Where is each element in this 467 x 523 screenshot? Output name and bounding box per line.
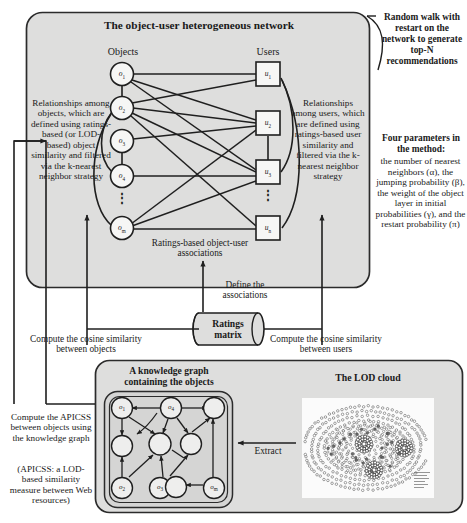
annotation-users-relationships: Relationships among users, which are def… xyxy=(290,98,366,182)
kg-edge-o4-midright xyxy=(177,418,188,433)
node-label-o2: o2 xyxy=(112,104,132,114)
annotation-objects-relationships: Relationships among objects, which are d… xyxy=(30,98,112,182)
kg-title-line1: A knowledge graph xyxy=(129,365,208,376)
kg-edge-midright-up xyxy=(192,418,210,432)
objects-ellipsis: ⋮ xyxy=(113,195,131,202)
users-column-header: Users xyxy=(238,47,298,58)
node-label-o4: o4 xyxy=(112,172,132,182)
four-parameters-body: the number of nearest neighbors (α), the… xyxy=(374,156,467,230)
node-label-u1: u1 xyxy=(258,70,278,80)
kg-node-label-o2: o2 xyxy=(113,484,131,493)
kg-node-label-o3: o3 xyxy=(151,484,169,493)
network-nodes xyxy=(0,0,467,523)
node-label-u3: u3 xyxy=(258,168,278,178)
kg-node-label-o4: o4 xyxy=(162,404,180,413)
annotation-define-associations: Define the associations xyxy=(208,280,282,301)
users-ellipsis: ⋮ xyxy=(259,192,277,199)
annotation-cosine-objects: Compute the cosine similarity between ob… xyxy=(30,334,142,355)
kg-node-mid-left xyxy=(112,436,133,457)
kg-title-line2: containing the objects xyxy=(124,376,214,387)
knowledge-graph-title: A knowledge graph containing the objects xyxy=(105,366,233,388)
network-caption: Ratings-based object-user associations xyxy=(130,238,270,259)
annotation-extract: Extract xyxy=(240,446,296,456)
objects-column-header: Objects xyxy=(92,47,154,58)
node-label-o1: o1 xyxy=(112,70,132,80)
kg-node-label-om: om xyxy=(205,484,223,493)
user-nodes xyxy=(256,62,280,240)
annotation-apicss-compute: Compute the APICSS between objects using… xyxy=(10,412,92,443)
ratings-matrix-line1: Ratings xyxy=(212,318,243,329)
node-label-un: un xyxy=(258,224,278,234)
ratings-matrix-line2: matrix xyxy=(214,329,242,340)
node-label-u2: u2 xyxy=(258,119,278,129)
four-parameters-title: Four parameters in the method: xyxy=(376,133,466,154)
kg-edge-center-midright xyxy=(172,450,184,458)
kg-edge-o3-midright xyxy=(170,455,188,476)
kg-node-mid-right xyxy=(181,434,202,455)
annotation-cosine-users: Compute the cosine similarity between us… xyxy=(270,334,382,355)
kg-node-mid-center xyxy=(149,433,171,455)
annotation-random-walk: Random walk with restart on the network … xyxy=(378,12,466,67)
lod-cloud-title: The LOD cloud xyxy=(306,373,430,383)
ratings-matrix-label: Ratings matrix xyxy=(199,318,257,341)
kg-edge-o3-center xyxy=(161,456,163,477)
kg-edge-o1-center xyxy=(129,417,155,434)
kg-edge-o2-center xyxy=(129,455,153,477)
kg-node-top-right xyxy=(204,398,225,419)
object-nodes xyxy=(111,63,134,240)
figure-root: The object-user heterogeneous network Ob… xyxy=(0,0,467,523)
annotation-apicss-note: (APICSS: a LOD-based similarity measure … xyxy=(8,464,94,506)
figure-title: The object-user heterogeneous network xyxy=(40,19,358,31)
kg-edge-o4-center xyxy=(163,419,168,433)
kg-node-label-o1: o1 xyxy=(113,404,131,413)
node-label-o3: o3 xyxy=(112,137,132,147)
node-label-om: om xyxy=(112,224,132,234)
